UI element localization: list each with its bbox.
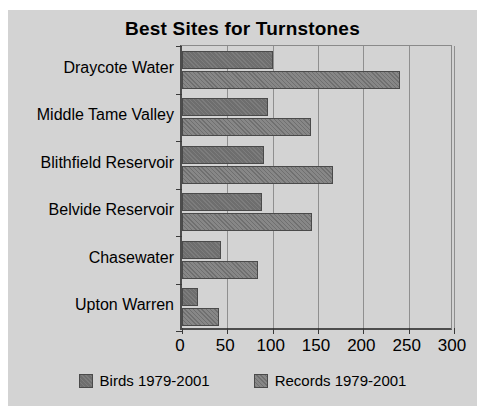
records-swatch <box>254 374 268 388</box>
bar-records <box>182 261 258 279</box>
x-axis-tick-label: 300 <box>422 336 482 356</box>
x-axis-tick <box>318 328 319 334</box>
gridline-vertical <box>454 46 455 328</box>
x-axis-tick <box>409 328 410 334</box>
bar-records <box>182 213 312 231</box>
bar-records <box>182 71 400 89</box>
bar-birds <box>182 241 221 259</box>
category-label-3: Blithfield Reservoir <box>0 154 174 172</box>
x-axis-tick <box>182 328 183 334</box>
x-axis-tick <box>363 328 364 334</box>
plot-area <box>180 45 452 330</box>
chart-legend: Birds 1979-2001Records 1979-2001 <box>8 372 477 389</box>
legend-item-2[interactable]: Records 1979-2001 <box>254 372 407 389</box>
x-axis-tick <box>454 328 455 334</box>
x-axis-tick <box>227 328 228 334</box>
bar-records <box>182 166 333 184</box>
legend-label: Birds 1979-2001 <box>100 372 210 389</box>
x-axis-tick <box>273 328 274 334</box>
y-axis-tick <box>176 284 182 285</box>
bar-birds <box>182 146 264 164</box>
category-label-4: Belvide Reservoir <box>0 201 174 219</box>
bar-birds <box>182 193 262 211</box>
bar-chart: Best Sites for Turnstones Birds 1979-200… <box>8 10 477 406</box>
bar-birds <box>182 288 198 306</box>
category-label-6: Upton Warren <box>0 296 174 314</box>
category-label-5: Chasewater <box>0 249 174 267</box>
gridline-vertical <box>409 46 410 328</box>
y-axis-tick <box>176 94 182 95</box>
y-axis-tick <box>176 189 182 190</box>
legend-label: Records 1979-2001 <box>275 372 407 389</box>
bar-birds <box>182 98 268 116</box>
y-axis-tick <box>176 141 182 142</box>
birds-swatch <box>79 374 93 388</box>
y-axis-tick <box>176 46 182 47</box>
y-axis-tick <box>176 331 182 332</box>
legend-item-1[interactable]: Birds 1979-2001 <box>79 372 210 389</box>
bar-records <box>182 118 311 136</box>
chart-title: Best Sites for Turnstones <box>8 18 477 40</box>
category-label-1: Draycote Water <box>0 59 174 77</box>
bar-birds <box>182 51 273 69</box>
bar-records <box>182 308 219 326</box>
category-label-2: Middle Tame Valley <box>0 106 174 124</box>
y-axis-tick <box>176 236 182 237</box>
